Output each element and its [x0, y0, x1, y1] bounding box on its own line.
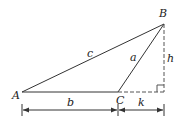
altitude-label-h: h: [167, 52, 174, 65]
triangle-diagram: A B C c a h b k: [0, 0, 184, 126]
vertex-label-c: C: [116, 94, 125, 107]
vertex-label-b: B: [158, 7, 167, 20]
right-angle-mark: [157, 85, 164, 92]
side-label-a: a: [130, 51, 137, 64]
side-a: [118, 24, 164, 92]
vertex-label-a: A: [11, 89, 20, 102]
dim-label-k: k: [138, 96, 145, 109]
side-label-c: c: [87, 47, 93, 60]
dim-label-b: b: [67, 96, 74, 109]
